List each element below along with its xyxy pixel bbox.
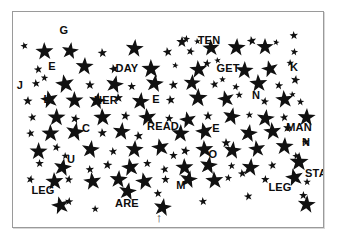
puzzle-frame: GTENEDAYGETKJLHERENCREADEMANUONLEGMLEGST…: [12, 11, 324, 228]
up-arrow-icon: ↑: [156, 210, 163, 225]
star-puzzle-image: GTENEDAYGETKJLHERENCREADEMANUONLEGMLEGST…: [0, 0, 337, 242]
marker-layer: ↑: [13, 12, 323, 227]
